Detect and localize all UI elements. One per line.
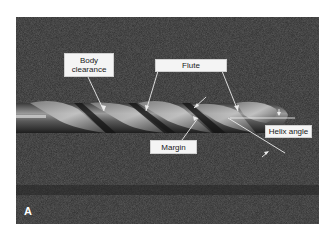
label-body-clearance-line2: clearance	[72, 65, 107, 74]
label-flute: Flute	[155, 59, 227, 72]
label-helix-angle: Helix angle	[265, 125, 312, 138]
label-helix-angle-text: Helix angle	[269, 127, 309, 136]
panel-letter: A	[24, 205, 32, 217]
label-body-clearance-line1: Body	[80, 56, 98, 65]
label-margin-text: Margin	[161, 143, 185, 152]
drill-bit-illustration	[16, 17, 319, 224]
label-flute-text: Flute	[182, 61, 200, 70]
label-body-clearance: Body clearance	[64, 53, 114, 77]
label-margin: Margin	[150, 140, 197, 154]
drill-bit-photo: Body clearance Flute Margin Helix angle …	[16, 17, 319, 224]
